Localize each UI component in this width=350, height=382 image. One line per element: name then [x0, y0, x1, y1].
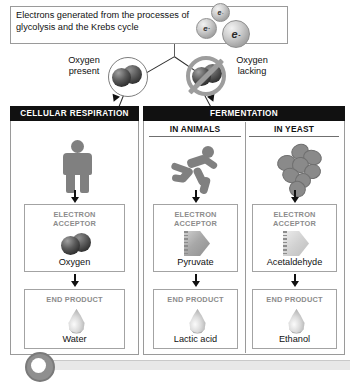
- electron-acceptor-box-oxygen: ELECTRON ACCEPTOR Oxygen: [24, 204, 125, 272]
- oxygen-molecule-icon: [61, 233, 91, 255]
- pyruvate-serrated-edge: [184, 231, 188, 256]
- fermentation-subheader-yeast: IN YEAST: [247, 124, 341, 134]
- electron-label: e: [218, 9, 222, 16]
- oxygen-atom-front: [112, 68, 131, 87]
- end-product-box-water: END PRODUCT Water: [24, 289, 125, 349]
- end-product-title: END PRODUCT: [25, 295, 124, 304]
- oxygen-molecule-icon: [112, 65, 142, 87]
- arrow-acceptor-to-product-head: [291, 281, 299, 287]
- person-torso: [63, 153, 92, 175]
- droplet-icon: [67, 309, 86, 334]
- electron-particle-medium: e-: [196, 18, 217, 39]
- oxygen-atom-front: [61, 236, 80, 255]
- intro-text: Electrons generated from the processes o…: [16, 10, 216, 33]
- electron-acceptor-box-acetaldehyde: ELECTRON ACCEPTOR Acetaldehyde: [252, 204, 337, 272]
- arrow-acceptor-to-product-head: [71, 281, 79, 287]
- acceptor-title-line1: ELECTRON: [174, 210, 216, 219]
- acceptor-name: Oxygen: [25, 257, 124, 267]
- cellular-respiration-header: CELLULAR RESPIRATION: [10, 106, 139, 121]
- oxygen-present-line1: Oxygen: [68, 55, 100, 65]
- person-head: [71, 140, 84, 153]
- electron-acceptor-title: ELECTRON ACCEPTOR: [25, 210, 124, 228]
- standing-person-icon: [55, 140, 100, 194]
- oxygen-lacking-line1: Oxygen: [236, 55, 268, 65]
- end-product-title: END PRODUCT: [154, 295, 237, 304]
- yeast-cluster-icon: [273, 144, 321, 196]
- oxygen-present-label: Oxygen present: [60, 55, 108, 78]
- electron-acceptor-title: ELECTRON ACCEPTOR: [253, 210, 336, 228]
- end-product-box-lactic-acid: END PRODUCT Lactic acid: [153, 289, 238, 349]
- end-product-name: Water: [25, 334, 124, 344]
- droplet-icon: [188, 309, 207, 334]
- fermentation-header: FERMENTATION: [143, 106, 345, 121]
- oxygen-lacking-label: Oxygen lacking: [228, 55, 276, 78]
- subheader-rule-yeast: [249, 136, 339, 137]
- oxygen-lacking-line2: lacking: [238, 66, 267, 76]
- electron-label: e: [232, 28, 238, 40]
- arrow-organism-to-acceptor-head: [291, 197, 299, 203]
- page-footer-circle-inner: [31, 358, 46, 373]
- arrow-acceptor-to-product-head: [192, 281, 200, 287]
- end-product-title: END PRODUCT: [253, 295, 336, 304]
- electron-charge: -: [222, 10, 223, 15]
- end-product-name: Ethanol: [253, 334, 336, 344]
- acceptor-title-line1: ELECTRON: [273, 210, 315, 219]
- arrow-organism-to-acceptor-head: [71, 197, 79, 203]
- electron-charge: -: [238, 31, 240, 38]
- oxygen-present-line2: present: [69, 66, 100, 76]
- electron-particle-small: e-: [211, 3, 230, 22]
- pyruvate-shape-icon: [184, 231, 210, 256]
- electron-particle-large: e-: [222, 20, 250, 48]
- electron-acceptor-box-pyruvate: ELECTRON ACCEPTOR Pyruvate: [153, 204, 238, 272]
- acetaldehyde-serrated-edge: [283, 231, 287, 256]
- arrow-to-cellular-respiration-head: [110, 94, 120, 103]
- connector-stem: [174, 44, 175, 56]
- runner-shin-back: [172, 174, 187, 183]
- electron-acceptor-title: ELECTRON ACCEPTOR: [154, 210, 237, 228]
- electron-label: e: [203, 24, 207, 33]
- fermentation-subheader-animals: IN ANIMALS: [147, 124, 243, 134]
- acceptor-title-line1: ELECTRON: [53, 210, 95, 219]
- acetaldehyde-shape-icon: [283, 231, 309, 256]
- end-product-box-ethanol: END PRODUCT Ethanol: [252, 289, 337, 349]
- acceptor-title-line2: ACCEPTOR: [53, 219, 96, 228]
- acceptor-title-line2: ACCEPTOR: [174, 219, 217, 228]
- running-person-icon: [168, 145, 220, 195]
- droplet-icon: [287, 309, 306, 334]
- person-leg-right: [80, 173, 89, 193]
- acceptor-title-line2: ACCEPTOR: [273, 219, 316, 228]
- acceptor-name: Pyruvate: [154, 257, 237, 267]
- acceptor-name: Acetaldehyde: [253, 257, 336, 267]
- page-footer-bar: [28, 360, 350, 370]
- arrow-organism-to-acceptor-head: [192, 197, 200, 203]
- subheader-rule-animals: [149, 136, 241, 137]
- electron-charge: -: [208, 26, 210, 31]
- end-product-name: Lactic acid: [154, 334, 237, 344]
- fermentation-column-divider: [245, 122, 246, 353]
